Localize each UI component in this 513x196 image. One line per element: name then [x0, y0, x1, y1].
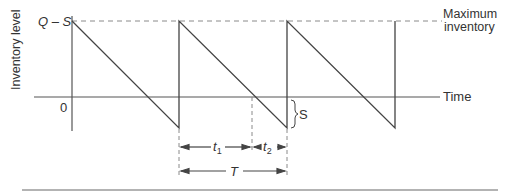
- sawtooth-inventory-curve: [72, 21, 395, 128]
- max-inventory-label-line1: Maximum: [443, 8, 497, 21]
- t2-subscript: 2: [267, 146, 272, 156]
- shortage-brace: [291, 100, 298, 128]
- inventory-sawtooth-diagram: [0, 0, 513, 196]
- max-inventory-label-line2: inventory: [444, 21, 495, 34]
- shortage-label: S: [299, 108, 308, 121]
- top-level-label: Q – S: [38, 15, 71, 28]
- y-axis-label: Inventory level: [9, 9, 23, 90]
- zero-label: 0: [60, 101, 67, 114]
- t1-label: t1: [213, 140, 222, 156]
- time-axis-label: Time: [443, 90, 471, 103]
- cycle-label: T: [230, 165, 238, 178]
- t2-label: t2: [263, 140, 272, 156]
- t1-subscript: 1: [217, 146, 222, 156]
